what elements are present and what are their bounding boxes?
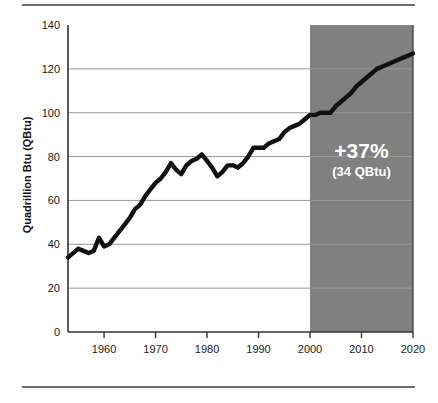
y-tick-label: 0	[54, 326, 60, 338]
y-axis-tick-labels: 020406080100120140	[42, 19, 60, 338]
y-tick-label: 40	[48, 238, 60, 250]
y-tick-label: 120	[42, 63, 60, 75]
growth-annotation: +37% (34 QBtu)	[332, 139, 391, 179]
energy-consumption-line-chart: 020406080100120140 196019701980199020002…	[0, 0, 438, 403]
x-tick-label: 2000	[298, 343, 322, 355]
y-tick-label: 80	[48, 151, 60, 163]
y-tick-label: 60	[48, 194, 60, 206]
x-tick-label: 1960	[92, 343, 116, 355]
x-tick-label: 1980	[195, 343, 219, 355]
x-tick-label: 2020	[401, 343, 425, 355]
growth-annotation-sub: (34 QBtu)	[332, 164, 391, 179]
growth-annotation-main: +37%	[334, 139, 389, 162]
x-axis-tick-labels: 1960197019801990200020102020	[92, 343, 425, 355]
x-tick-label: 1970	[143, 343, 167, 355]
y-tick-label: 20	[48, 282, 60, 294]
y-axis-title: Quadrillion Btu (QBtu)	[21, 116, 33, 233]
x-axis-tick-marks	[104, 332, 413, 338]
x-tick-label: 1990	[246, 343, 270, 355]
x-tick-label: 2010	[349, 343, 373, 355]
y-axis-title-text: Quadrillion Btu (QBtu)	[21, 116, 33, 233]
y-tick-label: 140	[42, 19, 60, 31]
y-tick-label: 100	[42, 107, 60, 119]
chart-figure: 020406080100120140 196019701980199020002…	[0, 0, 438, 403]
